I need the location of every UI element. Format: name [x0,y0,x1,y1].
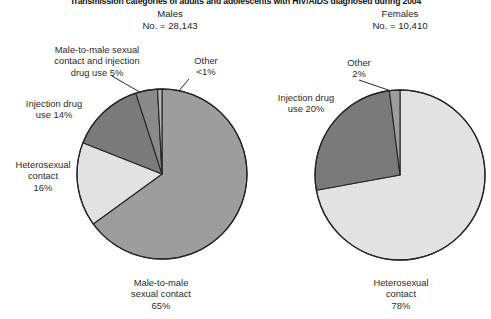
figure-title: Transmission categories of adults and ad… [0,0,491,7]
male-label-heterosexual-contact: Heterosexualcontact16% [0,159,86,193]
male-label-male-to-male-and-idu: Male-to-male sexualcontact and injection… [22,44,172,78]
female-label-other: Other2% [324,57,394,80]
male-label-other: Other<1% [176,55,236,78]
females-count-label: No. = 10,410 [330,20,470,32]
females-heading-label: Females [330,8,470,20]
male-label-injection-drug-use: Injection druguse 14% [6,98,102,121]
males-count-label: No. = 28,143 [100,20,240,32]
female-label-heterosexual-contact: Heterosexualcontact78% [318,277,484,311]
males-heading-label: Males [100,8,240,20]
females-panel-heading: Females No. = 10,410 [330,8,470,32]
male-label-male-to-male-sexual-contact: Male-to-malesexual contact65% [78,277,244,311]
males-panel-heading: Males No. = 28,143 [100,8,240,32]
female-label-injection-drug-use: Injection druguse 20% [256,92,356,115]
